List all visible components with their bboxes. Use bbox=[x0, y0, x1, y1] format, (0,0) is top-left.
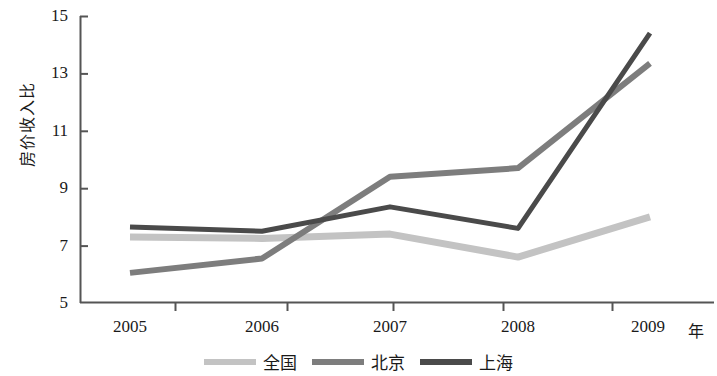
legend-swatch-shanghai bbox=[420, 359, 472, 365]
y-tick-label-15: 15 bbox=[34, 6, 68, 26]
legend-label-beijing: 北京 bbox=[371, 349, 406, 374]
chart-container: 房价收入比 15 13 11 9 7 5 2005 2006 2007 2008… bbox=[0, 0, 717, 376]
x-tick-label-2009: 2009 bbox=[613, 317, 683, 337]
x-tick-label-2005: 2005 bbox=[95, 317, 165, 337]
x-tick-label-2008: 2008 bbox=[483, 317, 553, 337]
legend-item-beijing: 北京 bbox=[312, 349, 406, 374]
legend-swatch-quanguo bbox=[204, 359, 256, 365]
x-axis-unit-label: 年 bbox=[688, 318, 704, 342]
series-line-shanghai bbox=[130, 33, 650, 231]
y-tick-label-9: 9 bbox=[34, 178, 68, 198]
x-tick-label-2007: 2007 bbox=[355, 317, 425, 337]
y-tick-label-7: 7 bbox=[34, 236, 68, 256]
legend-item-quanguo: 全国 bbox=[204, 349, 298, 374]
x-tick-label-2006: 2006 bbox=[227, 317, 297, 337]
legend-label-quanguo: 全国 bbox=[263, 349, 298, 374]
y-tick-label-11: 11 bbox=[34, 121, 68, 141]
series-line-quanguo bbox=[130, 217, 650, 257]
axis-lines bbox=[80, 16, 714, 303]
y-tick-label-5: 5 bbox=[34, 293, 68, 313]
data-series-group bbox=[130, 33, 650, 273]
legend-item-shanghai: 上海 bbox=[420, 349, 514, 374]
legend-swatch-beijing bbox=[312, 359, 364, 365]
legend-label-shanghai: 上海 bbox=[479, 349, 514, 374]
chart-legend: 全国 北京 上海 bbox=[0, 349, 717, 374]
y-tick-label-13: 13 bbox=[34, 63, 68, 83]
